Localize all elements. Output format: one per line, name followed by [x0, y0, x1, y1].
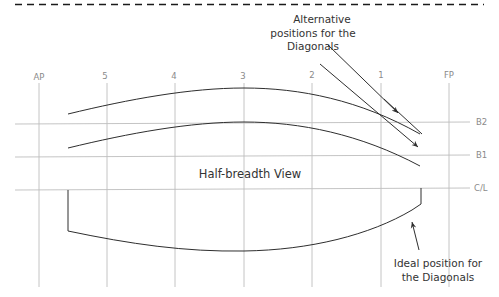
view-title: Half-breadth View	[199, 167, 301, 181]
alternative-diagonals	[320, 45, 422, 147]
annotation-alternative: Alternative positions for the Diagonals	[270, 13, 355, 52]
station-label-3: 3	[240, 71, 245, 81]
annotation-alternative-line-1: Alternative	[293, 13, 351, 25]
buttock-label-b2: B2	[476, 117, 487, 127]
station-label-ap: AP	[34, 72, 45, 82]
station-label-5: 5	[102, 71, 107, 81]
ideal-position-arrow	[412, 222, 419, 250]
buttock-label-cl: C/L	[474, 183, 488, 193]
annotation-alternative-line-3: Diagonals	[287, 40, 339, 52]
half-breadth-outline	[68, 188, 421, 251]
buttock-labels: B2 B1 C/L	[474, 117, 488, 193]
annotation-ideal: Ideal position for the Diagonals	[394, 257, 483, 283]
annotation-ideal-line-1: Ideal position for	[394, 257, 483, 269]
station-label-4: 4	[171, 71, 176, 81]
station-label-2: 2	[309, 70, 314, 80]
station-labels: AP 5 4 3 2 1 FP	[34, 70, 454, 82]
diagonal-line-upper-ext	[384, 99, 422, 134]
diagonal-arrow-lower	[320, 64, 418, 147]
buttock-label-b1: B1	[476, 150, 487, 160]
half-breadth-diagram: AP 5 4 3 2 1 FP B2 B1 C/L Alternative po…	[0, 0, 499, 297]
station-label-1: 1	[378, 70, 383, 80]
annotation-ideal-line-2: the Diagonals	[402, 271, 475, 283]
annotation-alternative-line-2: positions for the	[270, 27, 355, 39]
centerline	[15, 188, 470, 190]
station-label-fp: FP	[444, 70, 454, 80]
station-lines	[39, 83, 449, 287]
